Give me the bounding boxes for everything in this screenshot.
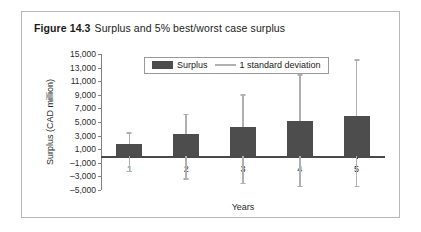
plot-frame: 15,00013,00011,0009,0007,0005,0003,0001,… xyxy=(101,54,385,190)
y-tick-label: 3,000 xyxy=(75,131,96,141)
error-bar-cap xyxy=(297,74,302,76)
chart-area: Surplus (CAD million) Years 15,00013,000… xyxy=(22,12,401,219)
y-tick-mark xyxy=(98,136,101,137)
y-tick-mark xyxy=(98,190,101,191)
error-bar-cap xyxy=(297,186,302,188)
error-bar-cap xyxy=(241,94,246,96)
x-axis-title: Years xyxy=(101,202,385,212)
bar xyxy=(230,127,256,156)
y-axis-line xyxy=(101,54,102,190)
y-axis-title: Surplus (CAD million) xyxy=(44,54,56,190)
error-bar-cap xyxy=(127,132,132,134)
y-tick-mark xyxy=(98,95,101,96)
y-tick-mark xyxy=(98,122,101,123)
y-tick-label: 13,000 xyxy=(70,63,96,73)
figure-panel: Figure 14.3Surplus and 5% best/worst cas… xyxy=(21,11,400,218)
y-tick-label: –5,000 xyxy=(70,185,96,195)
y-tick-label: 11,000 xyxy=(71,76,96,86)
y-tick-label: 5,000 xyxy=(75,117,96,127)
legend-entry-standard-deviation: 1 standard deviation xyxy=(215,60,321,70)
error-bar-cap xyxy=(184,178,189,180)
y-tick-mark xyxy=(98,163,101,164)
chart-legend: Surplus 1 standard deviation xyxy=(144,57,329,74)
y-tick-label: 15,000 xyxy=(70,49,96,59)
error-bar-cap xyxy=(127,171,132,173)
y-tick-mark xyxy=(98,81,101,82)
y-tick-label: –1,000 xyxy=(70,158,96,168)
legend-entry-surplus: Surplus xyxy=(152,60,208,70)
y-tick-mark xyxy=(98,176,101,177)
bar xyxy=(116,144,142,156)
legend-label-standard-deviation: 1 standard deviation xyxy=(240,60,321,70)
y-tick-mark xyxy=(98,54,101,55)
y-tick-label: 9,000 xyxy=(75,90,96,100)
error-bar-cap xyxy=(354,59,359,61)
y-tick-label: 1,000 xyxy=(75,144,96,154)
bar xyxy=(344,116,370,156)
y-tick-mark xyxy=(98,68,101,69)
y-tick-label: –3,000 xyxy=(70,171,96,181)
legend-line-swatch-icon xyxy=(215,64,236,66)
bar xyxy=(173,134,199,156)
y-tick-label: 7,000 xyxy=(75,103,96,113)
legend-bar-swatch-icon xyxy=(152,61,173,69)
y-tick-mark xyxy=(98,108,101,109)
error-bar-cap xyxy=(241,183,246,185)
y-tick-mark xyxy=(98,149,101,150)
legend-label-surplus: Surplus xyxy=(177,60,208,70)
bar xyxy=(287,121,313,156)
error-bar-cap xyxy=(184,114,189,116)
error-bar-cap xyxy=(354,186,359,188)
